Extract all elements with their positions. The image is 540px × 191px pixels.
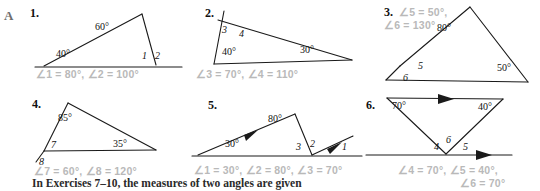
figure-6-label-70: 70° [392,100,406,111]
figure-5 [190,100,365,160]
figure-2-label-30: 30° [300,44,314,55]
figure-2-label-angle4: 4 [239,28,244,39]
figure-6-label-angle4: 4 [434,141,439,152]
figure-3-label-angle5: 5 [418,60,423,71]
exercise-page: A 1. 60° 40° 1 2 ∠1 = 80°, ∠2 = 100° 2. … [0,0,540,191]
figure-5-label-angle2: 2 [310,138,315,149]
answer-6-line1: ∠4 = 70°, ∠5 = 40°, [398,164,498,176]
footer-instruction: In Exercises 7–10, the measures of two a… [32,177,302,189]
answer-4: ∠7 = 60°, ∠8 = 120° [34,165,137,177]
figure-5-label-30: 30° [225,138,239,149]
figure-4-label-85: 85° [58,112,72,123]
section-letter: A [4,8,13,24]
figure-3-label-angle6: 6 [403,72,408,83]
figure-2-label-angle3: 3 [222,24,227,35]
figure-1 [30,10,190,72]
figure-3-label-80: 80° [437,22,451,33]
figure-1-label-angle2: 2 [155,50,160,61]
figure-4-label-angle7: 7 [51,139,56,150]
figure-1-label-40: 40° [56,48,70,59]
answer-6-line2: ∠6 = 70° [460,177,505,189]
figure-6-label-angle5: 5 [463,141,468,152]
answer-5: ∠1 = 30°, ∠2 = 80°, ∠3 = 70° [194,164,342,176]
figure-1-label-60: 60° [95,21,109,32]
figure-5-label-angle1: 1 [342,141,347,152]
answer-2: ∠3 = 70°, ∠4 = 110° [196,68,298,80]
figure-6-label-40: 40° [478,101,492,112]
figure-3 [360,4,540,90]
answer-1: ∠1 = 80°, ∠2 = 100° [36,68,139,80]
figure-2 [200,8,370,70]
figure-4-label-35: 35° [113,138,127,149]
figure-4 [20,98,180,163]
figure-5-label-angle3: 3 [296,141,301,152]
figure-3-label-50: 50° [497,62,511,73]
figure-1-label-angle1: 1 [142,50,147,61]
figure-5-label-80: 80° [268,113,282,124]
figure-6 [360,94,540,162]
figure-6-label-angle6: 6 [446,134,451,145]
figure-2-label-40: 40° [222,46,236,57]
